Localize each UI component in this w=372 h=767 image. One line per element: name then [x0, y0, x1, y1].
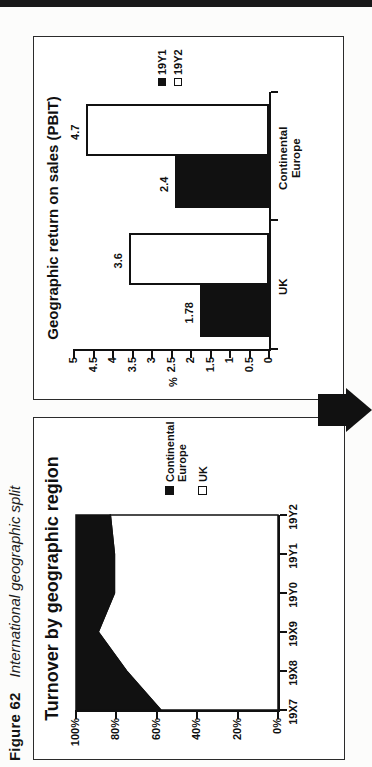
- year-tick-label: 19X8: [287, 655, 300, 691]
- bar-19Y2-continental-europe: [86, 104, 269, 156]
- rotated-figure-stage: Figure 62International geographic split …: [0, 0, 372, 767]
- percent-tick-label: 40%: [190, 718, 203, 759]
- category-label: UK: [277, 242, 290, 332]
- turnover-legend: Continental EuropeUK: [164, 422, 218, 496]
- value-tick-label: 1.5: [204, 357, 217, 399]
- bar-value-label: 1.78: [183, 291, 196, 335]
- bar-19Y1-uk: [200, 285, 269, 337]
- percent-tick-label: 100%: [69, 718, 82, 759]
- percent-tick-label: 60%: [150, 718, 163, 759]
- legend-swatch-icon: [198, 486, 207, 495]
- bar-value-label: 2.4: [158, 162, 171, 206]
- legend-label: 19Y2: [172, 49, 185, 75]
- year-tick-label: 19X9: [287, 616, 300, 652]
- turnover-chart-title: Turnover by geographic region: [42, 418, 63, 759]
- category-axis-tick: [271, 220, 278, 222]
- scanned-page: { "figure": { "label": "Figure 62", "tit…: [0, 0, 372, 767]
- bar-value-label: 3.6: [112, 239, 125, 283]
- bar-19Y2-uk: [129, 233, 269, 285]
- percent-axis-title: %: [167, 377, 180, 387]
- turnover-plot-area: [76, 515, 280, 712]
- continuation-arrow-icon: [318, 388, 372, 432]
- figure-number-label: Figure 62: [6, 693, 23, 762]
- value-tick-label: 3: [145, 357, 158, 399]
- year-axis-tick: [280, 709, 287, 711]
- page-header-bar: [0, 0, 372, 7]
- value-tick-label: 3.5: [126, 357, 139, 399]
- legend-label: UK: [197, 466, 209, 482]
- legend-swatch-icon: [158, 78, 166, 86]
- arrow-head: [346, 388, 372, 432]
- percent-tick-label: 80%: [109, 718, 122, 759]
- year-tick-label: 19X7: [287, 694, 300, 730]
- pbit-chart-title: Geographic return on sales (PBIT): [44, 37, 61, 399]
- year-axis-tick: [280, 631, 287, 633]
- year-tick-label: 19Y2: [287, 499, 300, 535]
- turnover-chart: Turnover by geographic region 100%80%60%…: [33, 417, 345, 760]
- value-tick-label: 4: [106, 357, 119, 399]
- category-label: Continental Europe: [277, 113, 303, 203]
- turnover-area-svg: [76, 515, 278, 710]
- legend-entry: 19Y2: [172, 49, 185, 86]
- pbit-legend: 19Y119Y2: [156, 49, 188, 86]
- bar-value-label: 4.7: [69, 110, 82, 154]
- figure-title: International geographic split: [6, 486, 23, 678]
- category-axis-tick: [271, 91, 278, 93]
- legend-entry: UK: [197, 422, 209, 496]
- legend-swatch-icon: [174, 78, 182, 86]
- legend-entry: Continental Europe: [164, 422, 188, 496]
- bar-19Y1-continental-europe: [175, 156, 269, 208]
- year-axis-tick: [280, 514, 287, 516]
- legend-swatch-icon: [165, 486, 174, 495]
- year-tick-label: 19Y0: [287, 577, 300, 613]
- arrow-shaft: [318, 394, 347, 426]
- year-axis-tick: [280, 592, 287, 594]
- year-axis-tick: [280, 670, 287, 672]
- legend-entry: 19Y1: [156, 49, 169, 86]
- value-tick-label: 5: [67, 357, 80, 399]
- value-tick-label: 1: [223, 357, 236, 399]
- legend-label: 19Y1: [156, 49, 169, 75]
- percent-tick-label: 20%: [231, 718, 244, 759]
- value-tick-label: 0.5: [243, 357, 256, 399]
- figure-caption: Figure 62International geographic split: [6, 486, 24, 761]
- value-tick-label: 2: [184, 357, 197, 399]
- value-tick-label: 0: [262, 357, 275, 399]
- category-axis-tick: [271, 348, 278, 350]
- percent-tick-label: 0%: [271, 718, 284, 759]
- pbit-plot-area: [74, 92, 271, 351]
- year-tick-label: 19Y1: [287, 538, 300, 574]
- value-tick-label: 4.5: [87, 357, 100, 399]
- pbit-chart: Geographic return on sales (PBIT) 54.543…: [33, 36, 344, 400]
- year-axis-tick: [280, 553, 287, 555]
- legend-label: Continental Europe: [164, 422, 188, 483]
